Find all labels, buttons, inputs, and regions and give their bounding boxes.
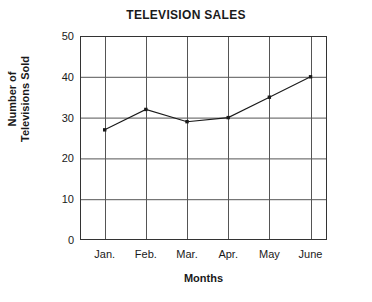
- chart-title: TELEVISION SALES: [0, 8, 372, 22]
- data-point-marker: [227, 116, 230, 119]
- vertical-gridlines: [106, 36, 312, 240]
- data-series-line: [105, 77, 311, 130]
- television-sales-line-chart: TELEVISION SALES Number of Televisions S…: [0, 0, 372, 302]
- horizontal-gridlines: [80, 77, 327, 199]
- x-axis-tick-label: Jan.: [94, 248, 115, 260]
- data-point-marker: [103, 128, 106, 131]
- data-point-markers: [103, 75, 312, 131]
- y-axis-tick-label: 40: [62, 71, 74, 83]
- y-axis-tick-label: 0: [68, 234, 74, 246]
- x-axis-tick-label: Apr.: [218, 248, 238, 260]
- y-axis-tick-label: 20: [62, 152, 74, 164]
- y-axis-title: Number of Televisions Sold: [6, 24, 40, 174]
- data-point-marker: [185, 120, 188, 123]
- data-point-marker: [144, 108, 147, 111]
- x-axis-tick-label: May: [259, 248, 280, 260]
- y-axis-tick-label: 30: [62, 112, 74, 124]
- y-axis-tick-label: 50: [62, 30, 74, 42]
- x-axis-tick-label: June: [299, 248, 323, 260]
- x-axis-tick-label: Feb.: [135, 248, 157, 260]
- plot-canvas: [80, 36, 327, 240]
- y-axis-title-line-2: Televisions Sold: [19, 24, 32, 174]
- plot-border: [81, 37, 327, 240]
- plot-area: 01020304050 Jan.Feb.Mar.Apr.MayJune: [80, 36, 327, 240]
- data-point-marker: [309, 75, 312, 78]
- y-axis-tick-label: 10: [62, 193, 74, 205]
- y-axis-title-line-1: Number of: [6, 24, 19, 174]
- x-axis-title: Months: [80, 272, 327, 284]
- data-point-marker: [268, 96, 271, 99]
- x-axis-tick-label: Mar.: [176, 248, 197, 260]
